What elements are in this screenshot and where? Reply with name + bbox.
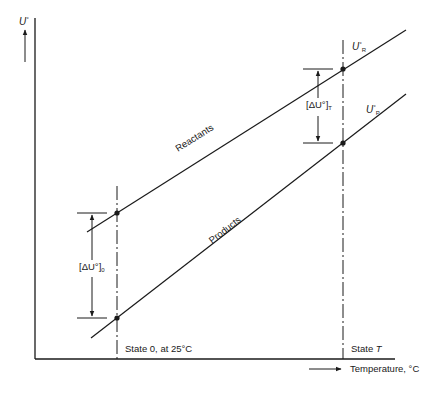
y-axis-label: U° [19, 16, 29, 27]
reactants-end-label: U°R [352, 41, 366, 53]
delta-t-label: [ΔU°]T [306, 100, 332, 111]
products-end-label: U°P [366, 104, 380, 116]
delta-0-label: [ΔU°]0 [79, 262, 105, 273]
products-state-t-point [340, 140, 345, 145]
x-axis-label: Temperature, °C [350, 364, 419, 374]
state-t-label: State T [351, 344, 382, 354]
reactants-label: Reactants [173, 121, 215, 153]
products-state-0-point [114, 315, 119, 320]
reactants-state-0-point [114, 210, 119, 215]
diagram-canvas: Reactants Products [0, 0, 435, 393]
reactants-state-t-point [340, 66, 345, 71]
state-0-label: State 0, at 25°C [125, 344, 192, 354]
products-line [91, 94, 406, 338]
products-label: Products [206, 214, 243, 246]
